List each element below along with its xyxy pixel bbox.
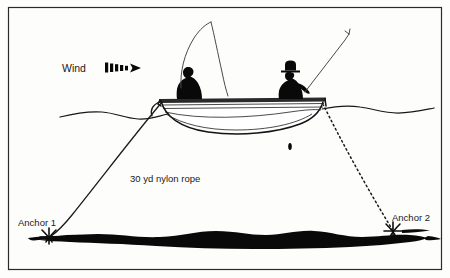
anchor-2-label: Anchor 2 (392, 212, 430, 223)
anchoring-diagram: Wind 30 yd nylon rope Anchor 1 Anchor 2 (0, 0, 450, 278)
anchor-1-label: Anchor 1 (18, 217, 56, 228)
fish-mark (288, 143, 292, 150)
diagram-canvas: Wind 30 yd nylon rope Anchor 1 Anchor 2 (0, 0, 450, 278)
rope-label: 30 yd nylon rope (130, 173, 200, 184)
stern-post (325, 99, 326, 106)
wind-label: Wind (62, 62, 86, 74)
